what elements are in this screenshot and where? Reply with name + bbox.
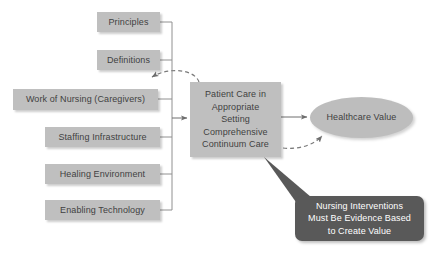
input-box-label: Principles	[97, 17, 160, 28]
input-box-label: Definitions	[97, 55, 160, 66]
callout-label: Nursing Interventions Must Be Evidence B…	[301, 200, 418, 238]
outcome-label: Healthcare Value	[310, 112, 413, 123]
input-box-work-of-nursing[interactable]: Work of Nursing (Caregivers)	[13, 89, 158, 110]
center-line-4: Comprehensive	[203, 127, 267, 137]
center-line-1: Patient Care in	[205, 89, 266, 99]
diagram-canvas: Principles Definitions Work of Nursing (…	[0, 0, 434, 255]
input-box-label: Staffing Infrastructure	[45, 132, 160, 143]
input-box-label: Healing Environment	[45, 169, 160, 180]
callout-line-1: Nursing Interventions	[316, 201, 403, 211]
input-box-staffing-infrastructure[interactable]: Staffing Infrastructure	[45, 127, 160, 147]
input-connector-stubs	[158, 22, 172, 210]
input-box-label: Work of Nursing (Caregivers)	[13, 94, 158, 105]
input-box-enabling-technology[interactable]: Enabling Technology	[45, 200, 160, 220]
input-box-definitions[interactable]: Definitions	[97, 50, 160, 70]
center-line-5: Continuum Care	[202, 139, 269, 149]
center-line-2: Appropriate	[212, 102, 260, 112]
input-box-principles[interactable]: Principles	[97, 12, 160, 32]
input-box-healing-environment[interactable]: Healing Environment	[45, 164, 160, 184]
outcome-ellipse-healthcare-value[interactable]: Healthcare Value	[310, 97, 413, 138]
callout-line-2: Must Be Evidence Based	[308, 213, 411, 223]
dashed-outcome-arc	[283, 136, 322, 148]
center-line-3: Setting	[221, 114, 250, 124]
callout-nursing-interventions[interactable]: Nursing Interventions Must Be Evidence B…	[295, 196, 424, 241]
center-box-label: Patient Care in Appropriate Setting Comp…	[193, 88, 278, 151]
dashed-feedback-arc	[152, 71, 199, 82]
callout-line-3: to Create Value	[328, 226, 391, 236]
input-box-label: Enabling Technology	[45, 205, 160, 216]
center-box-patient-care[interactable]: Patient Care in Appropriate Setting Comp…	[190, 82, 281, 157]
